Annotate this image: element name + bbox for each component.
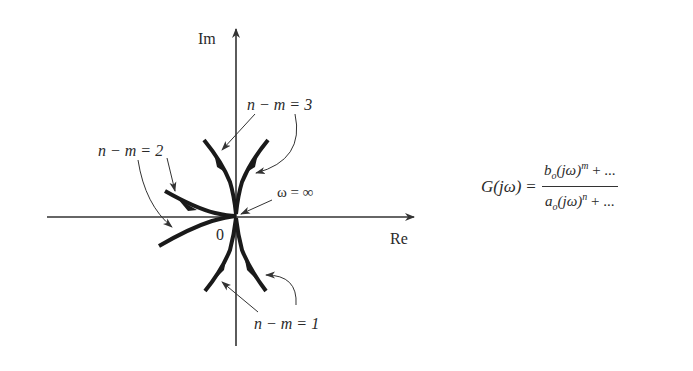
den-tail: + ... [587, 193, 614, 209]
arrowhead-icon [175, 226, 195, 236]
curves-n-minus-m-2 [159, 191, 236, 246]
formula-denominator: ao(jω)n + ... [543, 187, 616, 217]
label-n-minus-m-2: n − m = 2 [98, 142, 163, 159]
num-tail: + ... [588, 162, 615, 178]
label-n-minus-m-3: n − m = 3 [247, 96, 312, 113]
num-base: (jω) [556, 162, 581, 178]
leader-n-minus-m-2-upper [167, 158, 175, 191]
formula-equals: = [526, 177, 536, 197]
leader-n-minus-m-3-right [256, 114, 297, 173]
real-axis-label: Re [390, 230, 408, 247]
den-coef: a [545, 193, 553, 209]
leader-n-minus-m-1-right [266, 275, 296, 305]
formula-numerator: bo(jω)m + ... [542, 156, 618, 187]
label-omega-infinity: ω = ∞ [277, 184, 314, 200]
leader-n-minus-m-1-left [222, 282, 258, 312]
formula-lhs: G(jω) [481, 177, 521, 197]
transfer-function-formula: G(jω) = bo(jω)m + ... ao(jω)n + ... [481, 156, 618, 217]
origin-label: 0 [216, 226, 224, 243]
imag-axis-label: Im [198, 30, 216, 47]
leader-omega-infinity [241, 200, 272, 214]
label-n-minus-m-1: n − m = 1 [254, 315, 319, 332]
formula-fraction: bo(jω)m + ... ao(jω)n + ... [542, 156, 618, 217]
leader-n-minus-m-3-left [222, 114, 255, 150]
den-base: (jω) [558, 193, 583, 209]
